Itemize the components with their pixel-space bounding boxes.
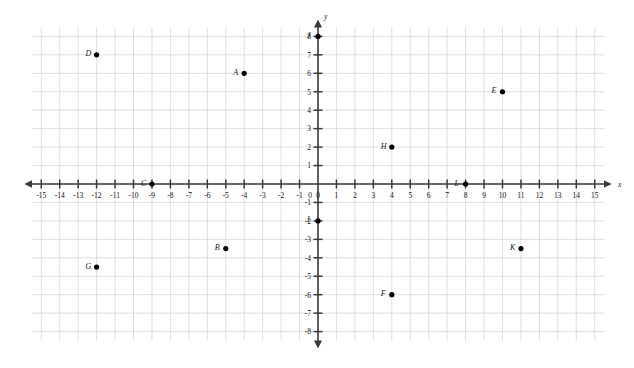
- x-axis-tick-label: 9: [482, 191, 486, 200]
- data-point-H[interactable]: [389, 145, 394, 150]
- y-axis-tick-label: -7: [305, 309, 311, 318]
- x-axis-tick-label: -12: [92, 191, 102, 200]
- x-axis-tick-label: 6: [427, 191, 431, 200]
- y-axis-tick-label: -4: [305, 254, 311, 263]
- point-label-E: E: [492, 87, 497, 95]
- x-axis-tick-label: 1: [335, 191, 339, 200]
- x-axis-tick-label: 11: [517, 191, 524, 200]
- y-axis-tick-label: 3: [307, 124, 311, 133]
- y-axis-name: y: [323, 12, 328, 21]
- x-axis-tick-label: 12: [536, 191, 544, 200]
- point-label-A: A: [233, 69, 238, 77]
- x-axis-tick-label: 4: [390, 191, 394, 200]
- x-axis-tick-label: 13: [554, 191, 562, 200]
- point-label-J: J: [307, 32, 311, 40]
- y-axis-tick-label: 1: [307, 161, 311, 170]
- data-point-J[interactable]: [315, 34, 320, 39]
- point-label-B: B: [215, 244, 220, 252]
- y-axis-tick-label: 6: [307, 69, 311, 78]
- data-point-D[interactable]: [94, 52, 99, 57]
- x-axis-tick-label: 2: [353, 191, 357, 200]
- y-axis-tick-label: -3: [305, 235, 311, 244]
- x-axis-tick-label: 7: [445, 191, 449, 200]
- x-axis-tick-label: 10: [499, 191, 507, 200]
- x-axis-tick-label: -8: [167, 191, 173, 200]
- data-point-E[interactable]: [500, 89, 505, 94]
- x-axis-tick-label: -7: [186, 191, 192, 200]
- x-axis-tick-label: -15: [36, 191, 46, 200]
- data-point-I[interactable]: [315, 218, 320, 223]
- coordinate-plane-canvas: -15-14-13-12-11-10-9-8-7-6-5-4-3-2-10123…: [0, 0, 634, 368]
- y-axis-tick-label: 4: [307, 106, 311, 115]
- x-axis-tick-label: -14: [55, 191, 65, 200]
- x-axis-tick-label: -9: [149, 191, 155, 200]
- x-axis-tick-label: -5: [223, 191, 229, 200]
- y-axis-tick-label: -6: [305, 291, 311, 300]
- x-axis-tick-label: -2: [278, 191, 284, 200]
- x-axis-tick-label: -3: [260, 191, 266, 200]
- data-point-A[interactable]: [242, 71, 247, 76]
- y-axis-tick-label: -5: [305, 272, 311, 281]
- data-point-L[interactable]: [463, 181, 468, 186]
- x-axis-tick-label: 3: [371, 191, 375, 200]
- point-label-I: I: [307, 216, 310, 224]
- point-label-F: F: [381, 290, 386, 298]
- x-axis-tick-label: -11: [110, 191, 120, 200]
- point-label-L: L: [455, 180, 459, 188]
- x-axis-tick-label: 5: [408, 191, 412, 200]
- data-point-B[interactable]: [223, 246, 228, 251]
- x-axis-tick-label: 8: [464, 191, 468, 200]
- data-point-K[interactable]: [518, 246, 523, 251]
- x-axis-tick-label: 0: [316, 191, 320, 200]
- y-axis-tick-label: 2: [307, 143, 311, 152]
- data-point-F[interactable]: [389, 292, 394, 297]
- y-axis-tick-label: -8: [305, 327, 311, 336]
- y-axis-tick-label: 5: [307, 88, 311, 97]
- y-axis-tick-label: 7: [307, 51, 311, 60]
- x-axis-name: x: [617, 180, 622, 189]
- x-axis-tick-label: -13: [73, 191, 83, 200]
- coordinate-plane: -15-14-13-12-11-10-9-8-7-6-5-4-3-2-10123…: [0, 0, 634, 368]
- data-point-G[interactable]: [94, 264, 99, 269]
- x-axis-tick-label: 15: [591, 191, 599, 200]
- point-label-G: G: [86, 263, 92, 271]
- point-label-K: K: [510, 244, 515, 252]
- point-label-C: C: [141, 180, 146, 188]
- point-label-H: H: [381, 143, 387, 151]
- x-axis-tick-label: -1: [296, 191, 302, 200]
- origin-label: 0: [308, 191, 312, 200]
- x-axis-tick-label: -4: [241, 191, 247, 200]
- data-point-C[interactable]: [149, 181, 154, 186]
- point-label-D: D: [86, 50, 92, 58]
- x-axis-tick-label: -6: [204, 191, 210, 200]
- x-axis-tick-label: -10: [129, 191, 139, 200]
- x-axis-tick-label: 14: [573, 191, 581, 200]
